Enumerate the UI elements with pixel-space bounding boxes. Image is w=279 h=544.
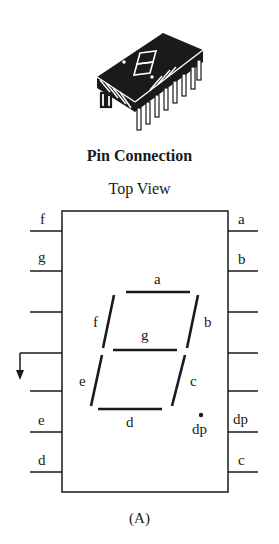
right-pin-label-dp: dp	[233, 412, 248, 427]
left-pin-label-g: g	[38, 250, 46, 265]
ground-arrow-icon	[16, 370, 24, 380]
segment-c	[172, 355, 185, 406]
left-pin-lines	[20, 231, 62, 472]
figure-title: Pin Connection	[0, 147, 279, 165]
right-pin-label-a: a	[238, 212, 245, 227]
segment-label-c: c	[190, 374, 197, 389]
right-pin-label-b: b	[238, 252, 246, 267]
segment-label-e: e	[79, 374, 86, 389]
seven-segment-display	[91, 292, 198, 409]
segment-b	[187, 295, 198, 348]
segment-dp	[199, 413, 203, 417]
segment-label-d: d	[126, 415, 134, 430]
figure-caption: (A)	[0, 510, 279, 527]
segment-e	[91, 355, 102, 406]
seven-segment-chip-icon	[97, 33, 203, 130]
left-pin-label-e: e	[38, 413, 45, 428]
segment-label-b: b	[204, 315, 212, 330]
segment-label-dp: dp	[192, 422, 207, 437]
segment-label-a: a	[154, 272, 161, 287]
left-pin-label-d: d	[38, 453, 46, 468]
segment-label-f: f	[93, 315, 98, 330]
right-pin-label-c: c	[238, 453, 245, 468]
left-pin-label-f: f	[40, 212, 45, 227]
segment-f	[103, 295, 114, 348]
figure-subtitle: Top View	[0, 180, 279, 198]
package-outline	[62, 211, 228, 492]
right-pin-lines	[228, 231, 258, 472]
segment-label-g: g	[141, 328, 149, 343]
